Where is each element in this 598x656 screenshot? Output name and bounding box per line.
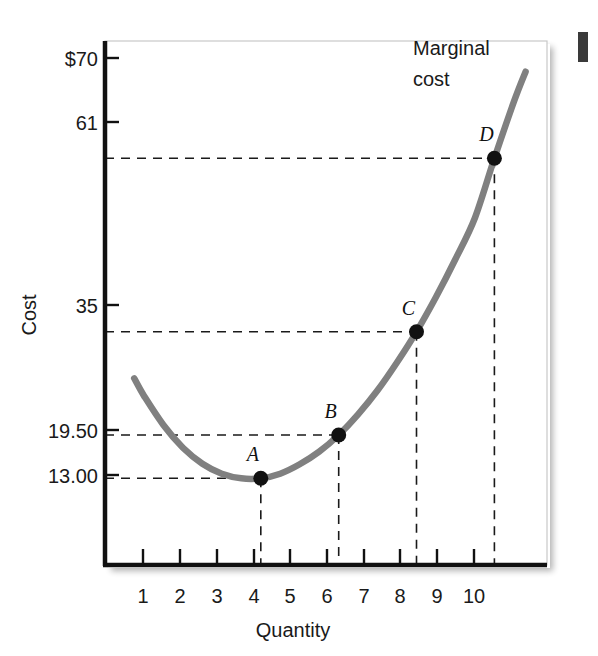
data-point-label-d: D bbox=[478, 123, 494, 145]
x-tick-label-4: 4 bbox=[248, 585, 259, 607]
series-label-line2: cost bbox=[413, 68, 450, 90]
plot-panel bbox=[105, 41, 547, 565]
x-tick-label-9: 9 bbox=[431, 585, 442, 607]
y-tick-label-35: 35 bbox=[76, 295, 98, 317]
data-point-label-b: B bbox=[325, 400, 337, 422]
y-tick-label-61: 61 bbox=[76, 112, 98, 134]
x-tick-label-8: 8 bbox=[394, 585, 405, 607]
data-point-a[interactable] bbox=[253, 471, 268, 486]
page-edge-mark bbox=[578, 32, 588, 62]
marginal-cost-chart: $70 61 35 19.50 13.00 1 2 3 4 5 6 7 8 9 … bbox=[0, 0, 598, 656]
data-point-label-c: C bbox=[402, 297, 416, 319]
y-tick-label-1950: 19.50 bbox=[48, 420, 98, 442]
x-tick-label-7: 7 bbox=[358, 585, 369, 607]
x-tick-label-1: 1 bbox=[137, 585, 148, 607]
y-tick-label-70: $70 bbox=[65, 48, 98, 70]
figure-container: $70 61 35 19.50 13.00 1 2 3 4 5 6 7 8 9 … bbox=[0, 0, 598, 656]
x-tick-label-3: 3 bbox=[211, 585, 222, 607]
data-point-d[interactable] bbox=[487, 151, 502, 166]
x-tick-label-10: 10 bbox=[463, 585, 485, 607]
x-tick-label-5: 5 bbox=[284, 585, 295, 607]
x-tick-label-2: 2 bbox=[174, 585, 185, 607]
y-axis-title: Cost bbox=[18, 294, 40, 336]
data-point-label-a: A bbox=[245, 443, 260, 465]
y-tick-label-1300: 13.00 bbox=[48, 465, 98, 487]
x-axis-title: Quantity bbox=[256, 619, 330, 641]
series-label-line1: Marginal bbox=[413, 37, 490, 59]
data-point-c[interactable] bbox=[409, 324, 424, 339]
data-point-b[interactable] bbox=[331, 428, 346, 443]
x-tick-label-6: 6 bbox=[321, 585, 332, 607]
